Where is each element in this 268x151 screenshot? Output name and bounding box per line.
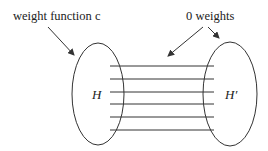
weight-function-label: weight function c xyxy=(13,9,101,23)
weight-function-arrow xyxy=(48,27,74,55)
set-h-label: H xyxy=(91,87,102,102)
zero-weights-label: 0 weights xyxy=(186,9,234,23)
edge-bundle xyxy=(110,66,214,130)
set-h-prime-label: H′ xyxy=(224,87,237,102)
zero-weights-arrow-set xyxy=(208,27,219,38)
diagram-canvas: weight function c 0 weights H H′ xyxy=(0,0,268,151)
zero-weights-arrow-edges xyxy=(168,27,203,56)
